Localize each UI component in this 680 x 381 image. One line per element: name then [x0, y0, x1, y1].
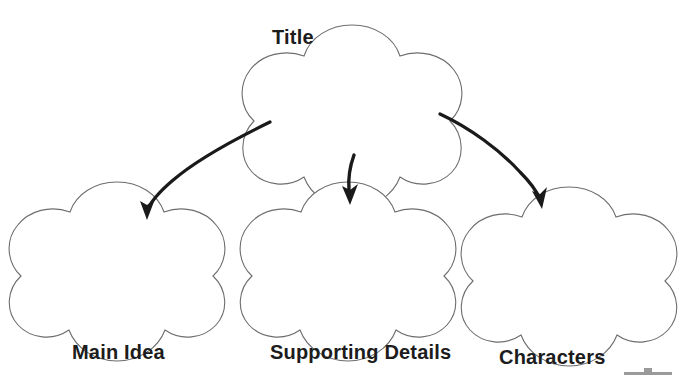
graphic-organizer-diagram: [0, 0, 680, 381]
node-label-supporting-details: Supporting Details: [270, 341, 451, 363]
node-label-characters: Characters: [499, 346, 606, 368]
scan-artifact-bar-right: [650, 372, 672, 375]
flower-shape-title[interactable]: [242, 25, 462, 208]
node-label-title: Title: [272, 26, 314, 48]
scan-artifact-bar-left: [624, 372, 646, 375]
flower-shape-characters[interactable]: [461, 187, 677, 366]
scan-artifact: [624, 368, 672, 375]
flower-shape-supporting-details[interactable]: [240, 182, 456, 361]
worksheet-canvas: Title Main Idea Supporting Details Chara…: [0, 0, 680, 381]
node-label-main-idea: Main Idea: [72, 341, 165, 363]
flower-shape-main-idea[interactable]: [9, 182, 225, 361]
